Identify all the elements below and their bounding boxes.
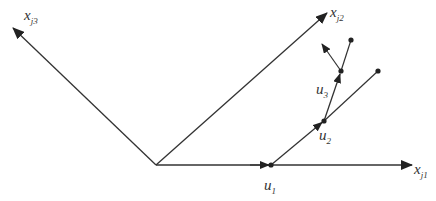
- label-u1: u1: [264, 177, 276, 196]
- label-u3: u3: [316, 81, 329, 100]
- arrow-u3-extra: [322, 44, 341, 71]
- vector-u1-u2: [271, 123, 322, 166]
- point-u3: [338, 68, 343, 73]
- label-xj2: xj2: [329, 4, 344, 23]
- label-xj3: xj3: [23, 7, 38, 26]
- point-u1: [268, 162, 273, 167]
- endpoint-u3-branch: [348, 37, 353, 42]
- diagram-canvas: xj1 xj2 xj3 u1 u2 u3: [0, 0, 436, 201]
- label-u2: u2: [319, 127, 332, 146]
- axis-xj2: [156, 13, 327, 165]
- branch-u3: [341, 40, 351, 71]
- label-xj1: xj1: [413, 161, 428, 180]
- point-u2: [321, 118, 326, 123]
- endpoint-u2-branch: [375, 68, 380, 73]
- axis-xj3: [13, 28, 156, 165]
